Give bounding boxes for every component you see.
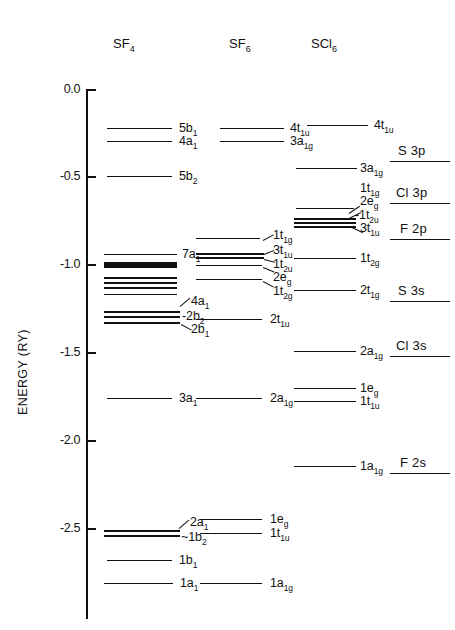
level-label-text: 3a (360, 161, 374, 175)
level-label-text: 3a (290, 134, 304, 148)
level-sf6-1a1g (200, 583, 262, 584)
y-tick-label-3: -1.5 (22, 345, 80, 359)
level-label-sf4-2b1: 2b1 (191, 322, 209, 339)
reference-label-s3p: S 3p (398, 143, 426, 158)
level-sf4-5b1 (107, 128, 172, 129)
level-label-sub: 1u (280, 319, 289, 329)
level-sf4-cluster-4 (104, 294, 177, 295)
level-scl6-3t1u-line (294, 226, 356, 228)
level-label-text: 5b (179, 121, 193, 135)
level-label-sub: 2g (370, 258, 379, 268)
level-label-text: 2t (270, 312, 280, 326)
level-label-scl6-2t1g: 2t1g (360, 283, 380, 300)
level-label-sub: 1g (284, 398, 293, 408)
level-label-sub: 1 (205, 329, 210, 339)
column-header-sf4: SF4 (113, 36, 135, 54)
level-label-text: 1e (360, 381, 374, 395)
level-label-sf4-1a1: 1a1 (180, 576, 198, 593)
leader-sf4-4a1b (180, 298, 191, 307)
level-scl6-1a1g (294, 466, 356, 467)
y-tick-0 (87, 89, 96, 91)
level-label-sub: 1g (370, 290, 379, 300)
level-sf4-2b2b (104, 316, 180, 318)
level-scl6-2a1g (294, 351, 356, 352)
y-tick-1 (87, 176, 96, 178)
y-tick-label-2: -1.0 (22, 257, 80, 271)
level-label-sub: 1 (205, 301, 210, 311)
level-label-sub: 1u (370, 228, 379, 238)
level-label-text: 1a (270, 576, 284, 590)
level-sf4-1b1 (107, 560, 172, 561)
level-label-text: 1b (179, 553, 193, 567)
level-label-sub: 1g (304, 141, 313, 151)
reference-label-f2s: F 2s (400, 455, 426, 470)
reference-underline-f2p (390, 239, 450, 240)
level-label-text: 1a (180, 576, 194, 590)
level-sf6-1t2g (196, 279, 262, 280)
level-sf6-3a1g (220, 141, 284, 142)
level-label-text: 2e (360, 194, 374, 208)
level-sf6-2eg (196, 265, 262, 266)
reference-label-cl3s: Cl 3s (396, 338, 427, 353)
level-label-text: 1t (273, 284, 283, 298)
column-header-sf6-sub: 6 (246, 44, 251, 54)
level-label-text: 1e (270, 512, 284, 526)
level-label-scl6-1t1u: 1t1u (360, 394, 380, 411)
level-label-sf6-3a1g: 3a1g (290, 134, 313, 151)
level-sf6-3t1u (196, 253, 264, 255)
level-scl6-2eg-line (294, 218, 356, 220)
level-label-text: 1a (360, 459, 374, 473)
level-label-sf6-2t1u: 2t1u (270, 312, 290, 329)
level-sf6-1t2u (196, 257, 264, 259)
reference-underline-cl3p (390, 203, 450, 204)
level-scl6-1t1u (294, 401, 356, 402)
reference-underline-f2s (390, 473, 450, 474)
reference-underline-s3s (390, 301, 450, 302)
level-label-text: 2a (360, 344, 374, 358)
level-scl6-1t1g (296, 208, 354, 209)
level-label-text: 2t (360, 283, 370, 297)
level-label-scl6-4t1u: 4t1u (374, 118, 394, 135)
level-label-scl6-3t1u: 3t1u (360, 221, 380, 238)
level-label-text: 1t (359, 208, 369, 222)
level-label-text: 3t (360, 221, 370, 235)
y-tick-label-5: -2.5 (22, 521, 80, 535)
level-label-text: 3a (179, 391, 193, 405)
level-label-text: 2b (191, 322, 205, 336)
level-label-text: 1t (273, 257, 283, 271)
level-label-text: 5b (179, 169, 193, 183)
level-scl6-3a1g (296, 168, 357, 169)
column-header-sf6: SF6 (229, 36, 251, 54)
level-label-sub: 2 (202, 537, 207, 547)
level-label-sub: 1g (374, 168, 383, 178)
level-scl6-1t2u-line (294, 222, 356, 224)
level-label-sub: 1g (374, 351, 383, 361)
level-label-text: 1t (360, 251, 370, 265)
level-label-sf6-1t1u: 1t1u (270, 526, 290, 543)
level-label-text: 1t (360, 394, 370, 408)
level-label-sub: 1u (280, 533, 289, 543)
y-tick-label-1: -0.5 (22, 169, 80, 183)
reference-label-s3s: S 3s (398, 283, 425, 298)
level-label-sub: 1g (374, 466, 383, 476)
level-sf6-2t1u (196, 319, 262, 320)
column-header-scl6-main: SCl (311, 36, 332, 51)
level-label-sub: 1 (194, 583, 199, 593)
level-label-text: 2a (190, 515, 204, 529)
level-label-scl6-1a1g: 1a1g (360, 459, 383, 476)
level-label-sf4-4a1: 4a1 (179, 134, 197, 151)
level-label-sf6-1t2g: 1t2g (273, 284, 293, 301)
level-label-scl6-1t2g: 1t2g (360, 251, 380, 268)
level-label-sf6-2a1g: 2a1g (270, 391, 293, 408)
y-tick-5 (87, 528, 96, 530)
level-label-sf4-7a1: 7a1 (182, 247, 200, 264)
level-label-sub: 1 (193, 141, 198, 151)
level-label-scl6-2a1g: 2a1g (360, 344, 383, 361)
level-label-text: 3t (273, 243, 283, 257)
level-label-text: 1t (360, 181, 370, 195)
level-sf4-3a1 (107, 398, 172, 399)
level-scl6-1eg (294, 388, 356, 389)
level-scl6-4t1u (307, 125, 368, 126)
level-sf6-1t1g (196, 238, 260, 239)
level-label-sf4-3a1: 3a1 (179, 391, 197, 408)
